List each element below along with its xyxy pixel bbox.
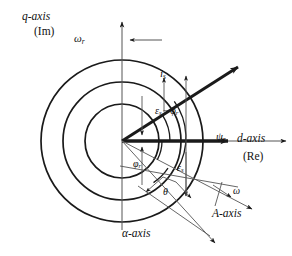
epsilon-s-label: εs — [177, 163, 184, 174]
epsilon-s-minus-phi-r-label: εs−φr — [155, 106, 178, 117]
d-axis-unit-label: (Re) — [243, 150, 263, 162]
omega-r-label: ωr — [74, 33, 85, 45]
theta-label: θ — [163, 187, 168, 198]
leader-theta-b — [176, 182, 191, 198]
stator-current-vector-label: is — [160, 68, 166, 80]
A-axis-label: A-axis — [212, 207, 241, 219]
q-axis-label: q-axis — [22, 10, 50, 22]
d-axis-label: d-axis — [237, 132, 265, 144]
arc-epsilon-s-minus-phi-r — [163, 115, 171, 141]
phi-r-label: φr — [133, 159, 141, 170]
rotor-flux-vector-label: ψr — [216, 131, 226, 143]
alpha-axis-label: α-axis — [122, 227, 150, 239]
diagram-canvas — [0, 0, 292, 256]
q-axis-unit-label: (Im) — [34, 25, 54, 37]
A-axis-ray — [122, 141, 252, 209]
omega-label: ω — [233, 186, 240, 197]
space-vector-phasor-diagram: q-axis (Im) ωr d-axis (Re) ψr is εs−φr φ… — [0, 0, 292, 256]
